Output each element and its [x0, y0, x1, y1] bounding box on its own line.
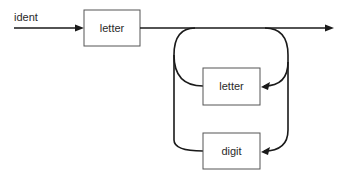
- digit-box-label: digit: [221, 145, 241, 157]
- digit-loop-arrow-icon: [261, 147, 270, 155]
- exit-arrow-icon: [325, 25, 334, 32]
- ident-syntax-diagram: ident letter letter digit: [0, 0, 346, 179]
- letter-box-first: letter: [84, 10, 140, 46]
- digit-box: digit: [203, 133, 260, 169]
- rule-name-label: ident: [14, 11, 38, 23]
- loop-left-rail: [174, 28, 203, 151]
- letter-loop-arrow-icon: [261, 82, 270, 90]
- letter-box-loop: letter: [203, 68, 260, 105]
- letter-box-loop-label: letter: [219, 80, 244, 92]
- entry-arrow-icon: [75, 25, 84, 32]
- loop-right-from-letter: [264, 62, 288, 86]
- loop-left-to-letter: [174, 55, 203, 86]
- letter-box-first-label: letter: [100, 22, 125, 34]
